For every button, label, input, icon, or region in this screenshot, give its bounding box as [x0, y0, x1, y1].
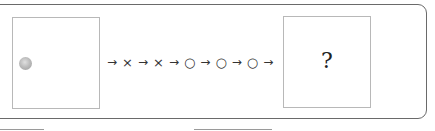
arrow-icon: →	[138, 55, 148, 69]
transform-sequence: → × → × → ○ → ○ → ○ →	[104, 52, 276, 72]
cross-symbol: ×	[153, 55, 164, 70]
cross-symbol: ×	[122, 55, 133, 70]
arrow-icon: →	[107, 55, 117, 69]
arrow-icon: →	[200, 55, 210, 69]
circle-symbol: ○	[215, 55, 226, 70]
ball-icon	[19, 57, 32, 70]
start-box	[12, 17, 100, 109]
result-box: ?	[283, 16, 371, 108]
circle-symbol: ○	[184, 55, 195, 70]
divider-line	[0, 129, 44, 130]
divider-line	[194, 129, 272, 130]
arrow-icon: →	[232, 55, 242, 69]
circle-symbol: ○	[247, 55, 258, 70]
question-mark: ?	[284, 48, 370, 73]
arrow-icon: →	[263, 55, 273, 69]
arrow-icon: →	[169, 55, 179, 69]
